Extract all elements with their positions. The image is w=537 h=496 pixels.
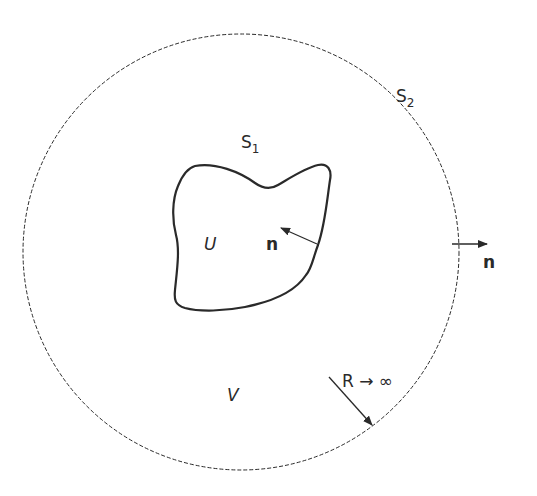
inner-body-label: U (204, 234, 217, 254)
inner-normal-arrow (281, 228, 317, 244)
inner-normal-label: n (266, 234, 278, 254)
inner-surface-label: S1 (241, 132, 259, 156)
outer-surface-label: S2 (396, 86, 414, 110)
diagram-canvas: S1 S2 U n n V R → ∞ (0, 0, 537, 496)
outer-normal-label: n (483, 252, 495, 272)
radius-label: R → ∞ (342, 371, 393, 391)
region-label: V (227, 385, 240, 405)
outer-surface-circle (23, 34, 459, 470)
inner-body-boundary (173, 165, 330, 311)
